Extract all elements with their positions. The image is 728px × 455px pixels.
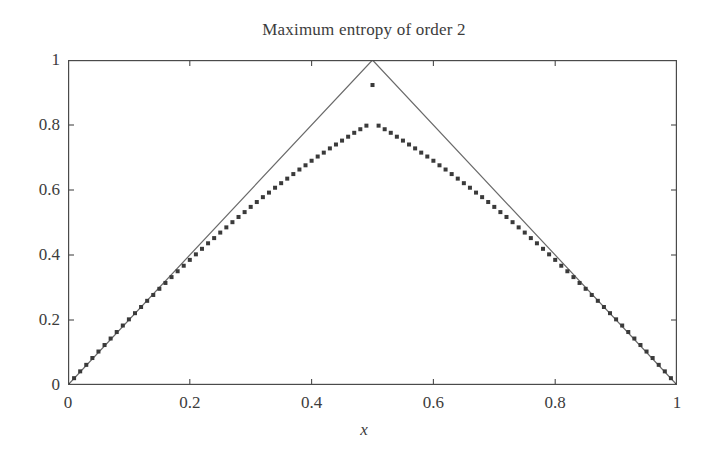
- data-point-marker: [419, 151, 423, 155]
- data-point-marker: [109, 337, 113, 341]
- data-point-marker: [608, 311, 612, 315]
- y-tick-label: 1: [12, 50, 60, 70]
- data-point-marker: [206, 241, 210, 245]
- data-point-marker: [541, 247, 545, 251]
- data-point-marker: [468, 186, 472, 190]
- data-point-marker: [535, 241, 539, 245]
- y-tick-label: 0: [12, 375, 60, 395]
- data-point-marker: [431, 159, 435, 163]
- data-point-marker: [115, 330, 119, 334]
- data-point-marker: [456, 177, 460, 181]
- x-tick-label: 1: [647, 393, 707, 413]
- data-point-marker: [237, 215, 241, 219]
- data-point-marker: [121, 324, 125, 328]
- data-point-marker: [596, 299, 600, 303]
- data-point-marker: [413, 146, 417, 150]
- data-point-marker: [255, 200, 259, 204]
- data-point-marker: [358, 127, 362, 131]
- data-point-marker: [565, 269, 569, 273]
- data-point-marker: [78, 369, 82, 373]
- data-point-marker: [297, 168, 301, 172]
- data-point-marker: [279, 181, 283, 185]
- data-point-marker: [145, 299, 149, 303]
- x-tick-label: 0: [38, 393, 98, 413]
- data-point-marker: [547, 252, 551, 256]
- data-point-marker: [645, 350, 649, 354]
- data-point-marker: [218, 231, 222, 235]
- data-point-marker: [450, 172, 454, 176]
- data-point-marker: [352, 131, 356, 135]
- data-point-marker: [243, 210, 247, 214]
- data-point-marker: [511, 220, 515, 224]
- data-point-marker: [84, 363, 88, 367]
- data-point-marker: [127, 317, 131, 321]
- data-point-marker: [626, 330, 630, 334]
- data-point-marker: [407, 143, 411, 147]
- plot-area: [68, 60, 677, 385]
- data-point-marker: [163, 281, 167, 285]
- x-tick-label: 0.8: [525, 393, 585, 413]
- data-point-marker: [383, 127, 387, 131]
- data-point-marker: [657, 363, 661, 367]
- data-point-marker: [444, 168, 448, 172]
- data-point-marker: [249, 205, 253, 209]
- data-point-marker: [139, 305, 143, 309]
- data-point-marker: [96, 350, 100, 354]
- data-point-marker: [103, 343, 107, 347]
- x-tick-label: 0.4: [282, 393, 342, 413]
- data-point-marker: [492, 205, 496, 209]
- data-point-marker: [90, 356, 94, 360]
- data-point-marker: [224, 225, 228, 229]
- x-tick-label: 0.6: [403, 393, 463, 413]
- data-point-marker: [389, 131, 393, 135]
- data-point-marker: [194, 252, 198, 256]
- y-tick-label: 0.8: [12, 115, 60, 135]
- y-tick-label: 0.6: [12, 180, 60, 200]
- data-point-marker: [328, 146, 332, 150]
- data-point-marker: [620, 324, 624, 328]
- data-point-marker: [498, 210, 502, 214]
- data-point-marker: [571, 275, 575, 279]
- data-point-marker: [261, 195, 265, 199]
- y-tick-label: 0.4: [12, 245, 60, 265]
- x-axis-label: x: [0, 420, 728, 440]
- data-point-marker: [176, 269, 180, 273]
- data-point-marker: [377, 124, 381, 128]
- data-point-marker: [462, 181, 466, 185]
- plot-background: [68, 60, 677, 385]
- data-point-marker: [602, 305, 606, 309]
- data-point-marker: [72, 376, 76, 380]
- data-point-marker: [584, 287, 588, 291]
- data-point-marker: [578, 281, 582, 285]
- data-point-marker: [669, 376, 673, 380]
- data-point-marker: [651, 356, 655, 360]
- data-point-marker: [504, 215, 508, 219]
- data-point-marker: [291, 172, 295, 176]
- data-point-marker: [559, 264, 563, 268]
- data-point-marker: [133, 311, 137, 315]
- data-point-marker: [371, 83, 375, 87]
- data-point-marker: [322, 151, 326, 155]
- data-point-marker: [340, 139, 344, 143]
- data-point-marker: [523, 231, 527, 235]
- chart-figure: Maximum entropy of order 2 00.20.40.60.8…: [0, 0, 728, 455]
- data-point-marker: [151, 293, 155, 297]
- data-point-marker: [474, 191, 478, 195]
- data-point-marker: [632, 337, 636, 341]
- data-point-marker: [316, 155, 320, 159]
- data-point-marker: [212, 236, 216, 240]
- data-point-marker: [614, 317, 618, 321]
- data-point-marker: [200, 247, 204, 251]
- data-point-marker: [188, 258, 192, 262]
- data-point-marker: [425, 155, 429, 159]
- data-point-marker: [364, 124, 368, 128]
- data-point-marker: [346, 135, 350, 139]
- data-point-marker: [267, 191, 271, 195]
- data-point-marker: [230, 220, 234, 224]
- data-point-marker: [310, 159, 314, 163]
- data-point-marker: [437, 163, 441, 167]
- data-point-marker: [517, 225, 521, 229]
- data-point-marker: [401, 139, 405, 143]
- x-tick-label: 0.2: [160, 393, 220, 413]
- data-point-marker: [480, 195, 484, 199]
